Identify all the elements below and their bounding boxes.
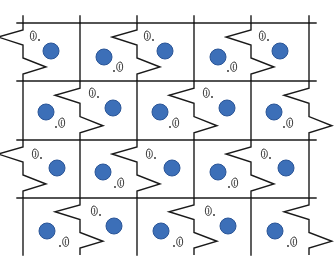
blue-circle xyxy=(38,104,54,120)
cell xyxy=(203,88,235,116)
ear-icon xyxy=(261,149,271,159)
ear-icon xyxy=(283,118,293,128)
cell xyxy=(39,223,69,247)
cell xyxy=(91,206,122,234)
ear-icon xyxy=(203,88,213,98)
cell xyxy=(95,164,124,188)
blue-circle xyxy=(39,223,55,239)
blue-circle xyxy=(272,43,288,59)
ear-icon xyxy=(169,118,179,128)
blue-circle xyxy=(278,160,294,176)
blue-circle xyxy=(164,160,180,176)
zigzag-boundary xyxy=(112,140,160,198)
blue-circle xyxy=(210,49,226,65)
cell xyxy=(153,223,183,247)
blue-circle xyxy=(266,104,282,120)
zigzag-boundary xyxy=(169,81,217,140)
ear-icon xyxy=(287,237,297,247)
cell xyxy=(32,149,65,176)
cell xyxy=(259,31,288,59)
ear-icon xyxy=(144,31,154,41)
ear-icon xyxy=(146,149,156,159)
blue-circle xyxy=(267,223,283,239)
blue-circle xyxy=(220,218,236,234)
ear-icon xyxy=(89,88,99,98)
ear-icon xyxy=(32,149,42,159)
blue-circle xyxy=(95,164,111,180)
zigzag-boundary xyxy=(226,23,274,81)
blue-circle xyxy=(96,49,112,65)
ear-icon xyxy=(59,237,69,247)
cells xyxy=(30,31,296,247)
cell xyxy=(30,31,59,59)
cell xyxy=(38,104,65,128)
cell xyxy=(96,49,123,72)
ear-icon xyxy=(91,206,101,216)
cell xyxy=(210,49,237,72)
ear-icon xyxy=(173,237,183,247)
zigzag-boundary xyxy=(55,81,103,140)
blue-circle xyxy=(105,100,121,116)
zigzag-boundary xyxy=(284,81,332,140)
blue-circle xyxy=(43,43,59,59)
cell xyxy=(210,164,238,188)
cell xyxy=(266,104,293,128)
zigzag-boundary xyxy=(0,140,46,198)
blue-circle xyxy=(210,164,226,180)
blue-circle xyxy=(152,104,168,120)
cell xyxy=(144,31,173,59)
diagram-canvas xyxy=(0,0,334,263)
cell xyxy=(261,149,294,176)
zigzag-boundary xyxy=(0,23,46,81)
cell xyxy=(267,223,297,247)
blue-circle xyxy=(157,43,173,59)
zigzag-boundary xyxy=(112,23,160,81)
ear-icon xyxy=(114,178,124,188)
cell xyxy=(152,104,179,128)
ear-icon xyxy=(228,178,238,188)
zigzag-boundary xyxy=(226,140,274,198)
ear-icon xyxy=(55,118,65,128)
tessellation-diagram xyxy=(0,0,334,263)
blue-circle xyxy=(106,218,122,234)
zigzag-boundary xyxy=(284,198,332,255)
cell xyxy=(205,206,236,234)
ear-icon xyxy=(113,62,123,72)
ear-icon xyxy=(259,31,269,41)
cell xyxy=(146,149,180,176)
blue-circle xyxy=(219,100,235,116)
ear-icon xyxy=(30,31,40,41)
ear-icon xyxy=(227,62,237,72)
blue-circle xyxy=(153,223,169,239)
ear-icon xyxy=(205,206,215,216)
cell xyxy=(89,88,121,116)
blue-circle xyxy=(49,160,65,176)
